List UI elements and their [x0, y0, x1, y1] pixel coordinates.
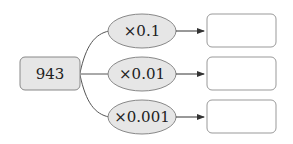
operation-ellipse-1: ×0.1 — [108, 14, 176, 48]
connector-bottom — [80, 75, 109, 117]
source-value: 943 — [36, 65, 65, 83]
result-box-3[interactable] — [207, 100, 276, 133]
multiplication-diagram: 943 ×0.1 ×0.01 ×0.001 — [0, 0, 293, 144]
result-box-1[interactable] — [207, 14, 276, 47]
connector-top — [80, 31, 109, 73]
operation-label: ×0.01 — [119, 65, 165, 83]
source-box: 943 — [20, 57, 80, 90]
operation-label: ×0.1 — [124, 22, 160, 40]
operation-ellipse-3: ×0.001 — [108, 100, 176, 134]
operation-ellipse-2: ×0.01 — [108, 57, 176, 91]
operation-label: ×0.001 — [114, 108, 170, 126]
result-box-2[interactable] — [207, 57, 276, 90]
